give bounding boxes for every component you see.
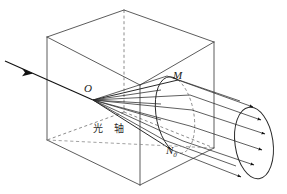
diagram-canvas — [0, 0, 287, 194]
cube-visible-edges — [47, 10, 214, 185]
exit-ray-5 — [183, 141, 254, 165]
cone-base-ellipse-group — [155, 77, 194, 153]
label-point-n0-subscript: 0 — [173, 151, 177, 159]
cube-edge-top-back-left — [47, 10, 124, 37]
exit-ray-1 — [178, 80, 253, 107]
cube-edge-bottom-right-front — [140, 148, 214, 185]
cube-edge-top-back-right — [124, 10, 214, 42]
optical-axis-group — [47, 140, 214, 148]
label-point-m: M — [173, 70, 182, 81]
cone-base-ellipse-front — [155, 77, 178, 150]
label-point-n0: N0 — [166, 145, 177, 159]
parallel-ray-cylinder — [164, 76, 265, 177]
crystal-cube — [47, 10, 214, 185]
cube-edge-top-front-left — [47, 37, 140, 85]
cone-base-ellipse-back — [172, 80, 195, 153]
incoming-ray-line — [5, 61, 93, 100]
cone-ray-7 — [93, 100, 161, 120]
screen-ellipse — [230, 105, 278, 182]
cube-edge-back-bottom-right — [124, 112, 214, 148]
incoming-ray-group — [5, 61, 93, 100]
optical-diagram-figure: O M N0 光 轴 — [0, 0, 287, 194]
optical-axis-line — [47, 140, 214, 148]
label-point-o: O — [84, 83, 92, 94]
label-optical-axis: 光 轴 — [93, 124, 128, 134]
cube-edge-bottom-left-front — [47, 140, 140, 185]
cube-hidden-edges — [47, 10, 214, 148]
refraction-cone — [93, 76, 192, 150]
